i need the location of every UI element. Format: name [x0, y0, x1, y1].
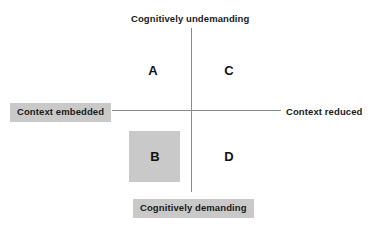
horizontal-axis-line [112, 110, 281, 111]
quadrant-label-c: C [221, 64, 237, 77]
axis-label-cognitively-demanding: Cognitively demanding [133, 199, 254, 218]
quadrant-label-d: D [221, 150, 237, 163]
quadrant-diagram: Cognitively undemanding Context embedded… [0, 0, 370, 227]
axis-label-context-embedded: Context embedded [10, 103, 111, 122]
quadrant-label-b: B [147, 150, 163, 163]
quadrant-label-a: A [145, 64, 161, 77]
axis-label-cognitively-undemanding: Cognitively undemanding [131, 14, 249, 24]
axis-label-context-reduced: Context reduced [286, 107, 362, 117]
